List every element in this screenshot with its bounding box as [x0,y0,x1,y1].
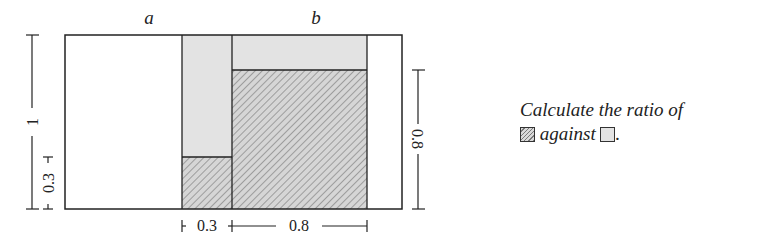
hatched-column-bottom [182,157,232,209]
period-text: . [615,123,620,144]
gray-swatch-icon [600,127,615,142]
dimension-left-total-label: 1 [24,118,41,126]
hatched-b-main [232,70,367,209]
label-a: a [144,7,154,28]
hatched-swatch-icon [520,127,535,142]
question-line-2: against . [520,122,683,146]
against-text: against [540,123,596,144]
dimension-left-small-label: 0.3 [40,173,57,193]
label-b: b [311,7,321,28]
gray-column-top [182,35,232,157]
dimension-bottom-large-label: 0.8 [289,217,309,234]
gray-b-top [232,35,367,70]
question-prompt: Calculate the ratio of against . [520,98,683,146]
dimension-bottom-small-label: 0.3 [197,217,217,234]
dimension-right-label: 0.8 [409,129,426,149]
question-line-1: Calculate the ratio of [520,98,683,122]
